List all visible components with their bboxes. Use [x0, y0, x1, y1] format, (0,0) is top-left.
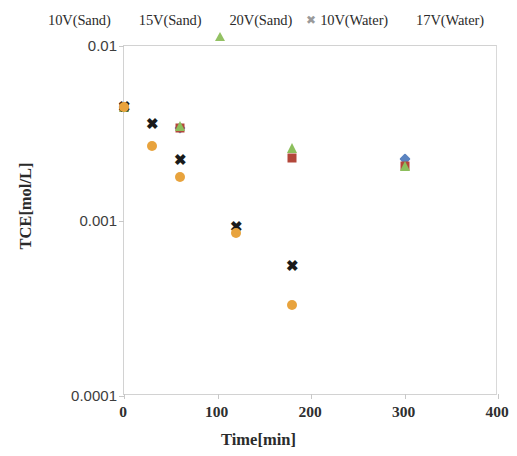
legend-label: 20V(Sand) [229, 12, 292, 29]
y-axis-tick-label: 0.001 [31, 212, 117, 229]
legend-item-10v-sand: 10V(Sand) [33, 12, 111, 29]
diamond-marker-icon [33, 15, 44, 26]
x-axis-tick-mark [311, 394, 312, 399]
data-point [175, 172, 185, 182]
y-axis-tick-label: 0.01 [31, 37, 117, 54]
x-axis-tick-mark [218, 394, 219, 399]
legend-label: 17V(Water) [416, 12, 484, 29]
y-axis-tick-label: 0.0001 [31, 387, 117, 404]
legend-item-10v-water: ✖ 10V(Water) [305, 12, 388, 29]
plot-area: ✖✖✖✖✖ [123, 45, 497, 395]
data-point [175, 121, 185, 131]
y-axis-title: TCE[mol/L] [16, 136, 36, 276]
x-axis-tick-mark [124, 394, 125, 399]
data-point: ✖ [145, 117, 159, 131]
y-axis-tick-mark [119, 221, 124, 222]
triangle-marker-icon [214, 15, 225, 26]
data-point [231, 228, 241, 238]
legend-label: 10V(Sand) [48, 12, 111, 29]
legend-item-20v-sand: 20V(Sand) [214, 12, 292, 29]
cross-marker-icon: ✖ [305, 15, 316, 26]
data-point [400, 161, 410, 171]
x-axis-tick-label: 200 [280, 403, 340, 421]
data-point [287, 143, 297, 153]
data-point [119, 102, 129, 112]
circle-marker-icon [401, 15, 412, 26]
x-axis-tick-mark [405, 394, 406, 399]
square-marker-icon [124, 15, 135, 26]
x-axis-tick-label: 0 [93, 403, 153, 421]
x-axis-title: Time[min] [0, 430, 517, 450]
x-axis-tick-label: 400 [467, 403, 517, 421]
scatter-chart-figure: 10V(Sand) 15V(Sand) 20V(Sand) ✖ 10V(Wate… [0, 0, 517, 456]
data-point [147, 141, 157, 151]
x-axis-tick-label: 100 [187, 403, 247, 421]
chart-legend: 10V(Sand) 15V(Sand) 20V(Sand) ✖ 10V(Wate… [0, 8, 517, 32]
y-axis-tick-mark [119, 46, 124, 47]
legend-label: 15V(Sand) [139, 12, 202, 29]
x-axis-tick-label: 300 [374, 403, 434, 421]
legend-label: 10V(Water) [320, 12, 388, 29]
data-point [288, 154, 297, 163]
data-point [287, 300, 297, 310]
data-point: ✖ [285, 259, 299, 273]
legend-item-17v-water: 17V(Water) [401, 12, 484, 29]
legend-item-15v-sand: 15V(Sand) [124, 12, 202, 29]
x-axis-tick-mark [498, 394, 499, 399]
data-point: ✖ [173, 153, 187, 167]
